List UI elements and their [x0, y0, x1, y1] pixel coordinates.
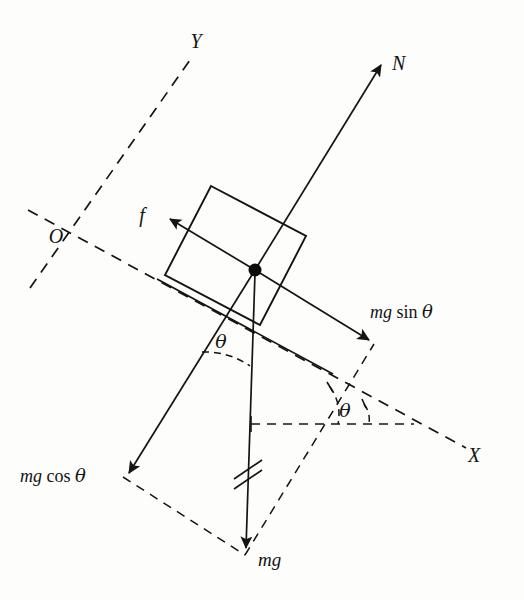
normal-force-shaft	[255, 65, 381, 270]
mg-sin-theta-label-angle: θ	[422, 301, 433, 322]
angle-label-at-base: θ	[339, 399, 351, 421]
incline-surface-line	[157, 279, 333, 374]
axis-group	[28, 60, 466, 448]
mg-cos-theta-label-mg: mg	[20, 466, 42, 486]
block-body	[165, 186, 306, 325]
mg-cos-theta-label-angle: θ	[75, 465, 86, 486]
weight-label: mg	[258, 549, 281, 570]
parallelogram-edge-right	[245, 344, 374, 555]
weight-shaft	[246, 273, 255, 548]
x-axis-line	[28, 210, 466, 448]
angle-label-at-block: θ	[215, 330, 227, 352]
vector-weight	[246, 273, 255, 548]
base-angle-tick-inner	[362, 399, 366, 408]
physics-diagram-canvas: Y X O N f mg θ θ mg sin θ mg cos θ	[0, 0, 524, 600]
block-rectangle	[165, 186, 306, 325]
friction-force-shaft	[170, 219, 255, 270]
y-axis-line	[30, 60, 190, 288]
mg-cos-theta-label-fn: cos	[47, 466, 71, 486]
angle-arc-at-base-outer	[330, 387, 339, 424]
x-axis-label: X	[467, 444, 481, 466]
vector-normal-force	[255, 65, 381, 270]
parallelogram-edge-left	[123, 477, 245, 555]
mg-sin-theta-shaft	[255, 270, 369, 340]
normal-force-label: N	[391, 52, 407, 74]
vector-mg-sin-theta	[255, 270, 369, 340]
vector-friction-force	[170, 219, 255, 270]
origin-label: O	[49, 225, 63, 247]
y-axis-label: Y	[190, 30, 203, 52]
angle-arc-at-block	[202, 352, 250, 366]
mg-sin-theta-label-fn: sin	[397, 302, 418, 322]
mg-cos-theta-shaft	[129, 270, 255, 473]
friction-force-label: f	[139, 204, 147, 227]
mg-sin-theta-label-mg: mg	[370, 302, 392, 322]
horizontal-reference-group	[251, 416, 414, 432]
mg-cos-theta-label: mg cos θ	[20, 465, 86, 486]
vector-mg-cos-theta	[129, 270, 255, 473]
center-of-mass-dot	[249, 264, 262, 277]
mg-sin-theta-label: mg sin θ	[370, 301, 433, 322]
incline-surface-group	[157, 279, 333, 374]
inclined-plane-free-body-diagram: Y X O N f mg θ θ mg sin θ mg cos θ	[0, 0, 524, 600]
base-angle-tick-outer	[327, 382, 333, 392]
